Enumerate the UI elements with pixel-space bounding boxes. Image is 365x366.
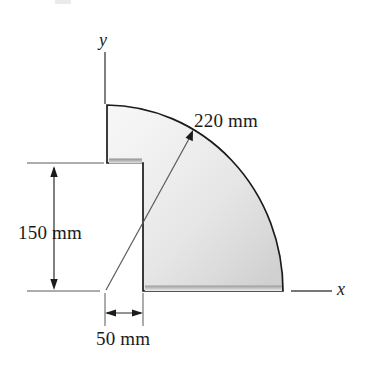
dimension-arrowhead-150-bottom xyxy=(50,279,57,290)
bottom-edge-shading xyxy=(145,286,282,292)
dimension-arrowhead-50-left xyxy=(105,309,116,316)
scan-artifact xyxy=(55,0,71,4)
notch-top-edge-shading xyxy=(109,159,142,164)
x-axis-label: x xyxy=(337,280,345,298)
dimension-arrowhead-150-top xyxy=(50,166,57,177)
quarter-circle-body xyxy=(107,105,283,291)
notch-width-dimension-label: 50 mm xyxy=(96,329,150,348)
y-axis-label: y xyxy=(99,31,107,49)
engineering-diagram xyxy=(0,0,365,366)
notch-height-dimension-label: 150 mm xyxy=(18,223,82,242)
dimension-arrowhead-50-right xyxy=(132,309,143,316)
radius-dimension-label: 220 mm xyxy=(194,111,258,130)
